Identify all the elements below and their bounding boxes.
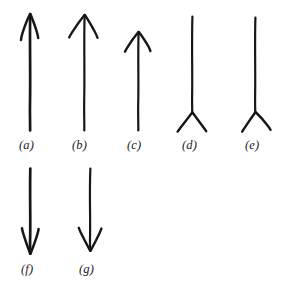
figure-label-f: (f): [21, 263, 33, 276]
arrow-d-fletch-left: [178, 113, 193, 132]
arrow-g-shaft: [90, 169, 91, 251]
arrow-f: [22, 169, 39, 254]
arrow-figure: (a) (b) (c) (d) (e) (f) (g): [0, 0, 282, 296]
arrow-a: [21, 14, 38, 131]
arrow-a-head-right: [30, 14, 38, 38]
figure-label-e: (e): [245, 139, 259, 152]
figure-label-a: (a): [19, 139, 34, 152]
arrow-g-head-left: [79, 228, 90, 251]
figure-label-b: (b): [72, 139, 87, 152]
arrow-a-head-left: [21, 14, 30, 40]
arrow-f-head-right: [31, 229, 39, 254]
figure-label-d: (d): [182, 139, 197, 152]
arrow-e-fletch-left: [242, 113, 255, 132]
arrow-c-head-left: [125, 32, 138, 52]
arrow-e-fletch-right: [256, 112, 271, 130]
arrow-d-fletch-right: [193, 113, 207, 132]
arrow-g-head-right: [91, 229, 102, 251]
arrow-e: [242, 18, 270, 132]
arrow-c: [125, 32, 150, 131]
figure-label-g: (g): [79, 263, 94, 276]
arrow-b-head-right: [85, 15, 98, 38]
arrow-b-head-left: [69, 15, 84, 37]
arrow-c-head-right: [139, 32, 151, 51]
arrow-b: [69, 15, 97, 131]
arrow-d: [178, 17, 207, 132]
arrow-g: [79, 169, 102, 251]
figure-label-c: (c): [127, 139, 141, 152]
